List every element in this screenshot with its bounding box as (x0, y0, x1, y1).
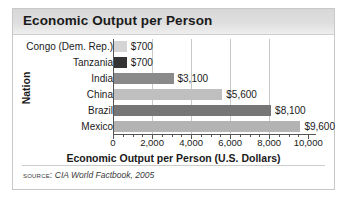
bar-row: $5,600 (113, 87, 316, 103)
category-label: China (87, 87, 113, 103)
bar-row: $3,100 (113, 71, 316, 87)
category-label: India (91, 71, 113, 87)
bars-plot: $700$700$3,100$5,600$8,100$9,600 (113, 39, 316, 135)
source-reference: CIA World Factbook, 2005 (55, 170, 154, 180)
x-axis-tick-label: 2,000 (140, 137, 164, 148)
chart-plot-area: Nation Congo (Dem. Rep.)TanzaniaIndiaChi… (13, 35, 334, 160)
bar-row: $8,100 (113, 103, 316, 119)
category-label: Congo (Dem. Rep.) (26, 39, 113, 55)
bar[interactable] (113, 89, 222, 100)
footer-divider (22, 165, 325, 166)
bar-value-label: $9,600 (304, 119, 335, 135)
source-label: Source: (23, 170, 52, 180)
x-axis-title: Economic Output per Person (U.S. Dollars… (13, 152, 334, 164)
bar[interactable] (113, 73, 174, 84)
x-axis-tick-label: 10,000 (294, 137, 323, 148)
category-label: Brazil (88, 103, 113, 119)
bar-value-label: $700 (131, 39, 153, 55)
bar[interactable] (113, 105, 271, 116)
x-axis-tick-label: 8,000 (257, 137, 281, 148)
x-axis-tick-label: 4,000 (179, 137, 203, 148)
x-axis-tick-labels: 02,0004,0006,0008,00010,000 (113, 137, 316, 151)
bar-value-label: $5,600 (226, 87, 257, 103)
bar-row: $9,600 (113, 119, 316, 135)
bar[interactable] (113, 121, 300, 132)
category-label: Tanzania (73, 55, 113, 71)
bar[interactable] (113, 57, 127, 68)
source-note: Source: CIA World Factbook, 2005 (23, 170, 154, 180)
bar-row: $700 (113, 39, 316, 55)
category-label: Mexico (81, 119, 113, 135)
title-band: Economic Output per Person (13, 9, 334, 35)
bar[interactable] (113, 41, 127, 52)
bar-value-label: $3,100 (178, 71, 209, 87)
bar-value-label: $700 (131, 55, 153, 71)
x-axis-tick-label: 6,000 (218, 137, 242, 148)
bars-canvas: $700$700$3,100$5,600$8,100$9,600 (113, 39, 316, 135)
y-axis-spine (113, 39, 114, 135)
category-axis-labels: Congo (Dem. Rep.)TanzaniaIndiaChinaBrazi… (31, 39, 113, 135)
bar-value-label: $8,100 (275, 103, 306, 119)
figure-container: Economic Output per Person Nation Congo … (12, 8, 335, 190)
x-axis-tick-label: 0 (110, 137, 115, 148)
bar-row: $700 (113, 55, 316, 71)
x-axis-line (113, 134, 316, 135)
chart-title: Economic Output per Person (23, 13, 212, 28)
